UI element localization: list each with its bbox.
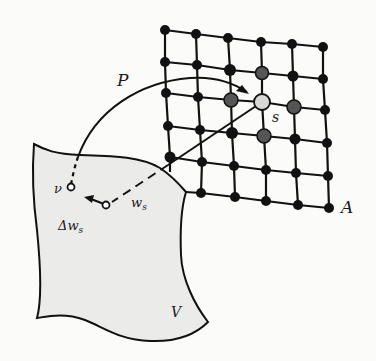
label-P: P bbox=[116, 70, 129, 90]
som-diagram: P s A ν ws Δws V bbox=[0, 0, 376, 361]
diagram-svg: P s A ν ws Δws V bbox=[0, 0, 376, 361]
label-A: A bbox=[339, 197, 353, 217]
winner-node-s bbox=[254, 94, 270, 110]
input-space-surface bbox=[33, 144, 208, 341]
weight-point-ws bbox=[103, 202, 110, 209]
input-point-v bbox=[68, 184, 75, 191]
grid-lines bbox=[165, 30, 329, 208]
label-s: s bbox=[272, 109, 279, 125]
grid-nodes bbox=[160, 25, 334, 213]
label-v: ν bbox=[54, 181, 62, 196]
